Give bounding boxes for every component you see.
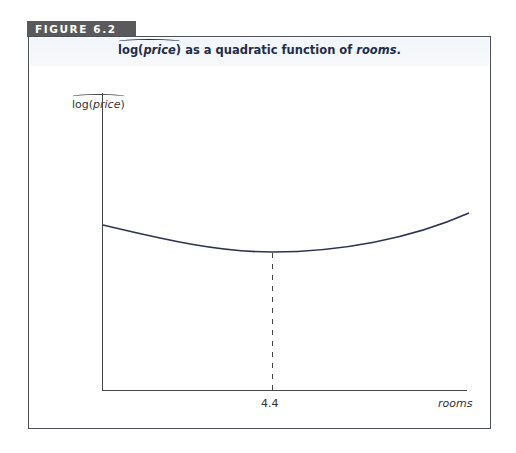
quadratic-curve (103, 213, 469, 252)
x-axis-label: rooms (438, 397, 472, 410)
x-tick-4-4: 4.4 (261, 397, 279, 410)
plot-area (0, 0, 516, 453)
